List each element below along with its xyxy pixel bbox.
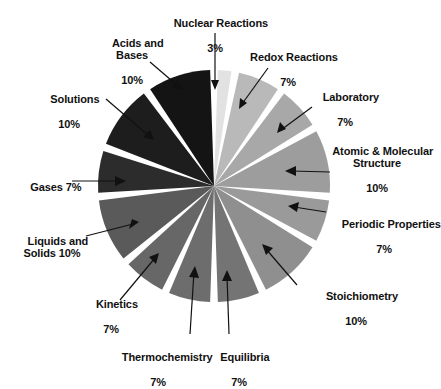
slice-label-equilibria: Equilibria 7%: [205, 338, 273, 389]
slice-label-liquids-and-solids-name: Liquids and Solids 10%: [23, 235, 88, 260]
slice-label-kinetics-pct: 7%: [78, 323, 144, 336]
slice-label-laboratory-name: Laboratory: [323, 91, 379, 103]
slice-label-acids-and-bases: Acids and Bases 10%: [94, 24, 170, 112]
slice-label-kinetics: Kinetics 7%: [78, 285, 144, 360]
slice-label-liquids-and-solids: Liquids and Solids 10%: [6, 222, 98, 272]
slice-label-atomic-molecular-structure-pct: 10%: [318, 182, 436, 195]
slice-label-periodic-properties-pct: 7%: [330, 243, 438, 256]
slice-label-thermochemistry-pct: 7%: [110, 376, 206, 389]
slice-label-equilibria-pct: 7%: [205, 376, 273, 389]
slice-label-acids-and-bases-pct: 10%: [94, 74, 170, 87]
slice-label-gases: Gases 7%: [10, 168, 90, 206]
slice-label-equilibria-name: Equilibria: [220, 351, 269, 363]
slice-label-stoichiometry-name: Stoichiometry: [326, 290, 398, 302]
slice-label-periodic-properties: Periodic Properties 7%: [330, 205, 438, 280]
slice-label-solutions-name: Solutions: [50, 93, 99, 105]
slice-label-atomic-molecular-structure-name: Atomic & Molecular Structure: [332, 145, 433, 170]
slice-label-stoichiometry: Stoichiometry 10%: [300, 277, 412, 352]
slice-label-laboratory-pct: 7%: [290, 116, 400, 129]
slice-label-nuclear-reactions-name: Nuclear Reactions: [174, 17, 268, 29]
slice-label-stoichiometry-pct: 10%: [300, 315, 412, 328]
slice-label-redox-reactions-name: Redox Reactions: [250, 51, 338, 63]
slice-label-periodic-properties-name: Periodic Properties: [342, 218, 441, 230]
slice-label-kinetics-name: Kinetics: [96, 298, 138, 310]
slice-label-solutions-pct: 10%: [26, 118, 112, 131]
slice-label-acids-and-bases-name: Acids and Bases: [112, 37, 164, 62]
slice-label-gases-name: Gases 7%: [30, 181, 81, 193]
